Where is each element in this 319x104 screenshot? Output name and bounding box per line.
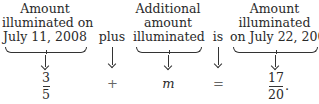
down-arrow-1 — [45, 55, 46, 67]
label-line: plus — [97, 30, 127, 44]
down-arrow-2 — [112, 47, 113, 65]
label-line: Additional — [133, 2, 203, 16]
label-line: July 11, 2008 — [2, 30, 88, 44]
underbrace-3 — [136, 47, 202, 53]
label-plus: plus — [97, 30, 127, 44]
label-line: amount — [133, 16, 203, 30]
denominator: 5 — [42, 87, 50, 102]
label-line: is — [208, 30, 228, 44]
variable-m: m — [160, 76, 177, 91]
down-arrow-3 — [168, 55, 169, 67]
numerator: 3 — [42, 70, 50, 85]
label-line: Amount — [230, 2, 319, 16]
label-is: is — [208, 30, 228, 44]
denominator: 20 — [268, 87, 284, 102]
down-arrow-5 — [275, 55, 276, 67]
underbrace-5 — [233, 47, 318, 53]
label-line: illuminated on — [2, 16, 88, 30]
numerator: 17 — [268, 70, 284, 85]
trailing-period: . — [284, 78, 290, 93]
label-line: illuminated — [133, 30, 203, 44]
underbrace-1 — [5, 47, 87, 53]
label-line: illuminated — [230, 16, 319, 30]
plus-sign: + — [104, 76, 121, 91]
label-additional-amount: Additional amount illuminated — [133, 2, 203, 44]
label-line: Amount — [2, 2, 88, 16]
label-amount-july-11: Amount illuminated on July 11, 2008 — [2, 2, 88, 44]
down-arrow-4 — [218, 47, 219, 65]
label-line: on July 22, 2008 — [230, 30, 319, 44]
fraction-3-5: 3 5 — [38, 71, 54, 102]
equals-sign: = — [210, 76, 227, 91]
label-amount-july-22: Amount illuminated on July 22, 2008 — [230, 2, 319, 44]
